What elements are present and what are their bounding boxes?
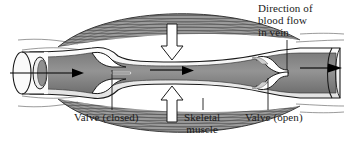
label-skeletal-line2: muscle bbox=[184, 123, 220, 135]
label-valve-closed: Valve (closed) bbox=[74, 111, 139, 123]
label-direction-line3: in vein bbox=[258, 26, 313, 38]
label-direction-line2: blood flow bbox=[258, 14, 313, 26]
skeletal-muscle-pump-diagram: Direction of blood flow in vein Valve (c… bbox=[0, 0, 349, 146]
label-direction-line1: Direction of bbox=[258, 2, 313, 14]
vein-lumen bbox=[40, 53, 336, 93]
label-direction-of-blood-flow: Direction of blood flow in vein bbox=[258, 2, 313, 39]
label-skeletal-muscle: Skeletal muscle bbox=[184, 111, 220, 135]
label-valve-open: Valve (open) bbox=[245, 111, 303, 123]
blood-column bbox=[40, 53, 336, 93]
label-skeletal-line1: Skeletal bbox=[184, 111, 220, 123]
